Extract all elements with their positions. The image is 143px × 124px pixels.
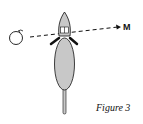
arrow-head-icon [116, 25, 121, 30]
dashed-arrow [30, 27, 118, 37]
rat-tail [63, 88, 66, 114]
target-label: M [123, 22, 131, 32]
apple-icon [10, 30, 24, 45]
rat-ear-right [70, 38, 77, 44]
figure-caption: Figure 3 [96, 102, 130, 113]
rat-body [55, 38, 75, 90]
rat-ear-left [51, 38, 59, 44]
